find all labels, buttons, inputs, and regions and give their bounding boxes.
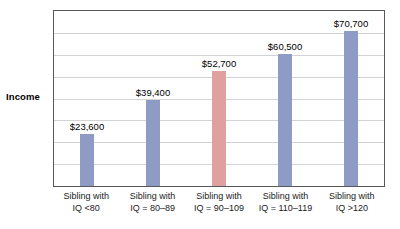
bar[interactable] [344, 31, 358, 186]
bar[interactable] [80, 134, 94, 186]
bar-slot: $23,600 [54, 11, 120, 186]
y-axis-title: Income [6, 91, 50, 102]
bar-value-label: $23,600 [70, 121, 104, 132]
bar-slot: $52,700 [186, 11, 252, 186]
category-label-line1: Sibling with [63, 191, 109, 201]
bar-chart-figure: Income $23,600 $39,400 $52,700 $60,500 $ [0, 0, 400, 229]
bar-value-label: $60,500 [268, 41, 302, 52]
category-label-line2: IQ = 90–109 [186, 202, 252, 214]
bars-layer: $23,600 $39,400 $52,700 $60,500 $70,700 [54, 11, 384, 186]
category-label-line2: IQ >120 [319, 202, 385, 214]
plot-area: $23,600 $39,400 $52,700 $60,500 $70,700 [53, 10, 385, 187]
category-label-line1: Sibling with [130, 191, 176, 201]
category-label: Sibling with IQ = 90–109 [186, 190, 252, 214]
category-label: Sibling with IQ >120 [319, 190, 385, 214]
category-label: Sibling with IQ <80 [53, 190, 119, 214]
category-label-line1: Sibling with [263, 191, 309, 201]
category-label-line1: Sibling with [329, 191, 375, 201]
bar[interactable] [146, 100, 160, 186]
x-axis-category-labels: Sibling with IQ <80 Sibling with IQ = 80… [53, 190, 385, 214]
category-label-line2: IQ = 80–89 [119, 202, 185, 214]
category-label-line1: Sibling with [196, 191, 242, 201]
bar-highlighted[interactable] [212, 71, 226, 186]
bar-value-label: $52,700 [202, 58, 236, 69]
category-label: Sibling with IQ = 110–119 [252, 190, 318, 214]
category-label-line2: IQ <80 [53, 202, 119, 214]
bar-slot: $60,500 [252, 11, 318, 186]
bar[interactable] [278, 54, 292, 186]
bar-value-label: $70,700 [334, 18, 368, 29]
category-label-line2: IQ = 110–119 [252, 202, 318, 214]
category-label: Sibling with IQ = 80–89 [119, 190, 185, 214]
bar-slot: $39,400 [120, 11, 186, 186]
bar-slot: $70,700 [318, 11, 384, 186]
bar-value-label: $39,400 [136, 87, 170, 98]
